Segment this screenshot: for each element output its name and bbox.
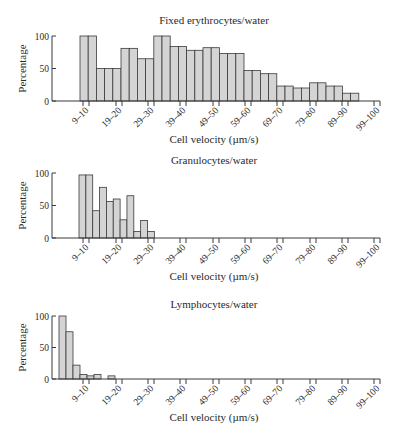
histogram-bar — [121, 48, 129, 101]
histogram-bar — [318, 83, 326, 101]
histogram-bar — [211, 48, 219, 101]
x-tick-label: 49–50 — [197, 105, 221, 129]
x-tick-label: 9–10 — [70, 242, 91, 263]
x-tick-label: 69–70 — [261, 105, 285, 129]
histogram-bar — [113, 199, 120, 238]
histogram-bar — [106, 202, 113, 238]
chart-svg-1: Granulocytes/water050100Percentage9–1019… — [0, 148, 397, 296]
y-tick-label: 50 — [40, 343, 50, 353]
chart-title: Granulocytes/water — [171, 154, 257, 166]
histogram-bar — [228, 54, 236, 101]
chart-svg-0: Fixed erythrocytes/water050100Percentage… — [0, 0, 397, 148]
x-tick-label: 39–40 — [164, 383, 188, 407]
histogram-bar — [88, 36, 96, 101]
x-tick-label: 59–60 — [229, 383, 253, 407]
x-tick-label: 39–40 — [164, 242, 188, 266]
x-tick-label: 29–30 — [132, 242, 156, 266]
histogram-bar — [129, 48, 137, 101]
y-tick-label: 100 — [35, 32, 50, 42]
histogram-bar — [310, 83, 318, 101]
y-tick-label: 0 — [44, 234, 49, 244]
histogram-bar — [195, 50, 203, 101]
histogram-bar — [96, 69, 104, 102]
histogram-bar — [80, 36, 88, 101]
x-tick-label: 39–40 — [164, 105, 188, 129]
x-tick-label: 69–70 — [261, 383, 285, 407]
histogram-bar — [277, 86, 285, 101]
histogram-bar — [260, 74, 268, 101]
histogram-bar — [127, 196, 134, 238]
histogram-bar — [141, 220, 148, 238]
histogram-bar — [236, 54, 244, 101]
histogram-bar — [100, 187, 107, 238]
chart-fixed-erythrocytes: Fixed erythrocytes/water050100Percentage… — [0, 0, 397, 148]
x-axis-label: Cell velocity (µm/s) — [170, 270, 259, 283]
x-tick-label: 59–60 — [229, 242, 253, 266]
histogram-bar — [113, 69, 121, 102]
x-tick-label: 69–70 — [261, 242, 285, 266]
histogram-bar — [73, 365, 80, 379]
histogram-bar — [334, 86, 342, 101]
histogram-bar — [326, 86, 334, 101]
x-tick-label: 49–50 — [197, 383, 221, 407]
y-axis-label: Percentage — [16, 323, 28, 371]
x-tick-label: 9–10 — [70, 105, 91, 126]
histogram-bar — [351, 93, 359, 101]
x-axis-label: Cell velocity (µm/s) — [170, 133, 259, 146]
histogram-bar — [178, 46, 186, 101]
histogram-bar — [252, 70, 260, 101]
x-tick-label: 89–90 — [326, 105, 350, 129]
chart-lymphocytes: Lymphocytes/water050100Percentage9–1019–… — [0, 296, 397, 443]
histogram-bar — [137, 59, 145, 101]
x-tick-label: 19–20 — [100, 383, 124, 407]
x-tick-label: 99–100 — [354, 105, 381, 132]
y-tick-label: 0 — [44, 375, 49, 385]
y-tick-label: 0 — [44, 97, 49, 107]
histogram-bar — [80, 375, 87, 379]
histogram-bar — [94, 375, 101, 379]
histogram-bar — [203, 48, 211, 101]
x-tick-label: 29–30 — [132, 383, 156, 407]
histogram-bar — [244, 70, 252, 101]
histogram-bar — [170, 46, 178, 101]
histogram-bar — [66, 332, 73, 379]
histogram-bar — [120, 220, 127, 238]
histogram-bar — [219, 54, 227, 101]
y-tick-label: 100 — [35, 312, 50, 322]
x-tick-label: 59–60 — [229, 105, 253, 129]
y-tick-label: 50 — [40, 64, 50, 74]
x-tick-label: 9–10 — [70, 383, 91, 404]
x-axis-label: Cell velocity (µm/s) — [170, 411, 259, 424]
y-tick-label: 50 — [40, 201, 50, 211]
chart-svg-2: Lymphocytes/water050100Percentage9–1019–… — [0, 296, 397, 443]
chart-title: Fixed erythrocytes/water — [159, 14, 269, 26]
y-axis-label: Percentage — [16, 44, 28, 92]
x-tick-label: 19–20 — [100, 105, 124, 129]
x-tick-label: 79–80 — [294, 105, 318, 129]
x-tick-label: 79–80 — [294, 383, 318, 407]
chart-granulocytes: Granulocytes/water050100Percentage9–1019… — [0, 148, 397, 296]
histogram-bar — [162, 36, 170, 101]
histogram-bar — [301, 88, 309, 101]
x-tick-label: 29–30 — [132, 105, 156, 129]
histogram-bar — [79, 175, 86, 238]
histogram-bar — [187, 50, 195, 101]
x-tick-label: 99–100 — [354, 383, 381, 410]
x-tick-label: 99–100 — [354, 242, 381, 269]
histogram-bar — [269, 74, 277, 101]
y-tick-label: 100 — [35, 169, 50, 179]
x-tick-label: 89–90 — [326, 383, 350, 407]
histogram-bar — [146, 59, 154, 101]
histogram-bar — [59, 316, 66, 379]
histogram-bar — [86, 175, 93, 238]
x-tick-label: 19–20 — [100, 242, 124, 266]
x-tick-label: 79–80 — [294, 242, 318, 266]
x-tick-label: 89–90 — [326, 242, 350, 266]
x-tick-label: 49–50 — [197, 242, 221, 266]
histogram-bar — [93, 211, 100, 238]
histogram-bar — [342, 93, 350, 101]
chart-title: Lymphocytes/water — [171, 298, 258, 310]
histogram-bar — [148, 232, 155, 239]
histogram-bar — [285, 86, 293, 101]
histogram-bar — [154, 36, 162, 101]
